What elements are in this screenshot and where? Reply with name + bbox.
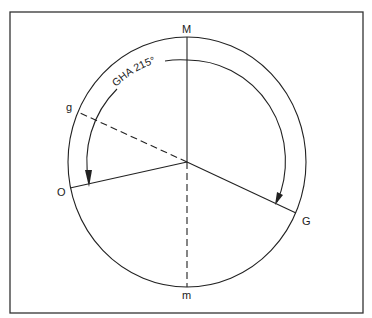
gha-label-text: GHA 215° [109, 54, 156, 89]
radius-g-lower-line [78, 112, 187, 162]
label-o: O [57, 186, 66, 198]
label-g-lower: g [66, 101, 72, 113]
radius-g-upper-line [187, 162, 296, 213]
gha-diagram: GHA 215° M m O g G [0, 0, 372, 318]
label-m-lower: m [182, 289, 191, 301]
arrow-head-g-icon [275, 192, 283, 205]
gha-label: GHA 215° [109, 54, 156, 89]
gha-arc-right [165, 60, 285, 202]
gha-arc-left [87, 89, 117, 183]
label-m-upper: M [182, 23, 191, 35]
label-g-upper: G [302, 215, 311, 227]
